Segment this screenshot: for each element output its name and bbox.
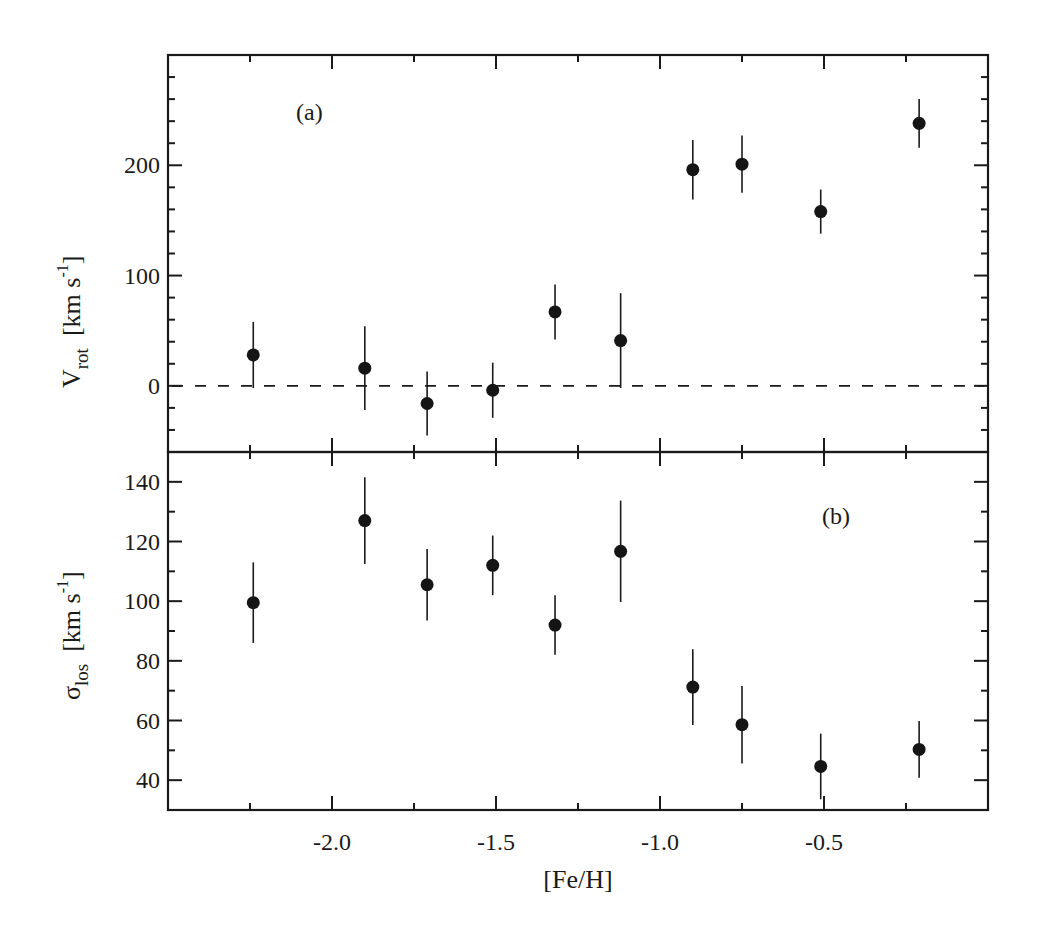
y-tick-label: 100 [124,588,160,614]
point-marker [358,362,371,375]
panel-b-tick-labels: 406080100120140-2.0-1.5-1.0-0.5 [124,469,843,855]
point-marker [814,205,827,218]
y-tick-label: 120 [124,529,160,555]
point-marker [913,743,926,756]
panel-b-label: (b) [822,503,850,529]
data-point [486,363,499,418]
point-marker [614,545,627,558]
point-marker [247,348,260,361]
figure: 0100200 (a) Vrot[km s-1] 406080100120140… [0,0,1039,939]
data-point [913,99,926,148]
data-point [913,721,926,778]
panel-a-data-points [247,99,926,435]
data-point [358,477,371,564]
point-marker [421,397,434,410]
panel-b-frame [168,452,988,810]
data-point [421,371,434,435]
panel-a-ticks [168,55,988,452]
panel-a-frame [168,55,988,452]
point-marker [549,619,562,632]
x-tick-label: -1.0 [641,829,679,855]
y-tick-label: 100 [124,263,160,289]
data-point [247,322,260,388]
point-marker [247,596,260,609]
data-point [814,190,827,234]
panel-b-ylabel: σlos[km s-1] [54,571,92,700]
data-point [686,140,699,200]
data-point [247,562,260,643]
data-point [358,326,371,410]
data-point [421,549,434,621]
x-axis-label: [Fe/H] [543,865,612,894]
y-tick-label: 60 [136,708,160,734]
data-point [614,501,627,602]
y-tick-label: 140 [124,469,160,495]
point-marker [549,305,562,318]
panel-a-velocity: 0100200 (a) Vrot[km s-1] [54,55,988,452]
panel-a-tick-labels: 0100200 [124,152,160,399]
data-point [686,649,699,725]
point-marker [736,158,749,171]
point-marker [686,163,699,176]
data-point [549,595,562,655]
data-point [736,136,749,193]
data-point [736,686,749,764]
data-point [614,293,627,388]
point-marker [814,760,827,773]
point-marker [614,334,627,347]
panel-b-ticks [168,452,988,810]
point-marker [736,718,749,731]
data-point [486,536,499,596]
data-point [549,284,562,339]
point-marker [486,384,499,397]
y-tick-label: 40 [136,767,160,793]
point-marker [686,681,699,694]
panel-a-label: (a) [296,99,323,125]
x-tick-label: -0.5 [805,829,843,855]
y-tick-label: 200 [124,152,160,178]
data-point [814,734,827,800]
point-marker [486,559,499,572]
panel-b-dispersion: 406080100120140-2.0-1.5-1.0-0.5 (b) σlos… [54,452,988,894]
point-marker [913,117,926,130]
y-tick-label: 0 [148,373,160,399]
x-tick-label: -1.5 [477,829,515,855]
y-tick-label: 80 [136,648,160,674]
x-tick-label: -2.0 [313,829,351,855]
point-marker [358,514,371,527]
point-marker [421,578,434,591]
panel-a-ylabel: Vrot[km s-1] [54,256,92,388]
